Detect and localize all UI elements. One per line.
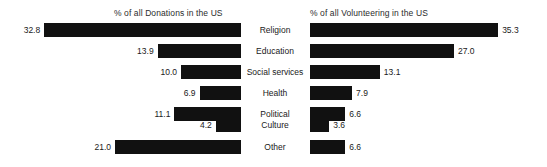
volunteering-value-label: 7.9 (356, 88, 368, 98)
volunteering-value-label: 27.0 (458, 46, 475, 56)
donations-value-label: 13.9 (137, 46, 154, 56)
donations-bar (200, 86, 241, 100)
category-label: Social services (243, 67, 307, 77)
volunteering-row: 13.1 (310, 65, 547, 79)
chart-row: 13.9Education27.0 (0, 44, 547, 58)
volunteering-bar (310, 23, 498, 37)
volunteering-value-label: 6.6 (349, 142, 361, 152)
chart-row: 21.0Other6.6 (0, 140, 547, 154)
volunteering-value-label: 13.1 (384, 67, 401, 77)
volunteering-bar (310, 86, 352, 100)
category-label: Other (243, 142, 307, 152)
volunteering-row: 3.6 (310, 118, 547, 132)
paired-bar-chart: % of all Donations in the US % of all Vo… (0, 0, 547, 167)
donations-row: 10.0 (0, 65, 241, 79)
donations-row: 32.8 (0, 23, 241, 37)
volunteering-row: 27.0 (310, 44, 547, 58)
volunteering-value-label: 3.6 (333, 120, 345, 130)
left-panel-title: % of all Donations in the US (114, 8, 223, 18)
chart-row: 6.9Health7.9 (0, 86, 547, 100)
donations-value-label: 6.9 (184, 88, 196, 98)
donations-bar (44, 23, 241, 37)
donations-value-label: 10.0 (160, 67, 177, 77)
donations-value-label: 4.2 (200, 120, 212, 130)
donations-bar (115, 140, 241, 154)
donations-bar (216, 118, 241, 132)
donations-value-label: 32.8 (24, 25, 41, 35)
volunteering-bar (310, 140, 345, 154)
donations-row: 4.2 (0, 118, 241, 132)
chart-row: 10.0Social services13.1 (0, 65, 547, 79)
donations-row: 21.0 (0, 140, 241, 154)
volunteering-row: 35.3 (310, 23, 547, 37)
category-label: Education (243, 46, 307, 56)
category-label: Religion (243, 25, 307, 35)
volunteering-bar (310, 44, 454, 58)
donations-bar (158, 44, 241, 58)
donations-bar (181, 65, 241, 79)
category-label: Health (243, 88, 307, 98)
donations-row: 6.9 (0, 86, 241, 100)
volunteering-bar (310, 118, 329, 132)
volunteering-row: 7.9 (310, 86, 547, 100)
donations-row: 13.9 (0, 44, 241, 58)
chart-row: 32.8Religion35.3 (0, 23, 547, 37)
category-label: Culture (243, 120, 307, 130)
volunteering-value-label: 35.3 (502, 25, 519, 35)
volunteering-row: 6.6 (310, 140, 547, 154)
right-panel-title: % of all Volunteering in the US (310, 8, 428, 18)
donations-value-label: 21.0 (94, 142, 111, 152)
chart-row: 4.2Culture3.6 (0, 118, 547, 132)
volunteering-bar (310, 65, 380, 79)
